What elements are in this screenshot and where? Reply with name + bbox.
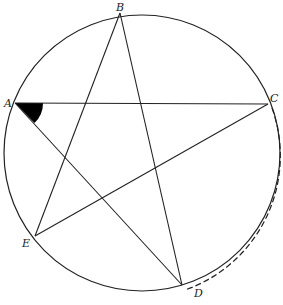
circumscribed-circle (4, 15, 280, 291)
segment-da (15, 103, 182, 285)
label-d: D (193, 287, 203, 300)
segment-eb (35, 13, 120, 236)
label-e: E (21, 237, 30, 250)
segment-ce (35, 104, 268, 236)
pentagram-diagram: A B C D E (0, 0, 283, 305)
label-a: A (3, 97, 12, 110)
dashed-arc-cd (185, 108, 280, 290)
segment-ac (15, 103, 268, 104)
label-b: B (115, 1, 124, 14)
shaded-angle-a (15, 103, 43, 123)
label-c: C (270, 92, 279, 105)
segment-bd (120, 13, 182, 285)
